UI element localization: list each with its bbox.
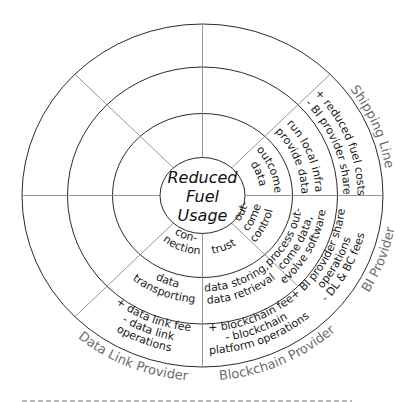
value-wheel-diagram: Reduced Fuel Usage outcomedatarun local … [0,0,416,402]
center-label-line-2: Fuel [186,187,220,206]
center-label-line-3: Usage [178,206,228,225]
center-label-line-1: Reduced [167,168,238,187]
inner-ring-label: trust [210,236,238,257]
